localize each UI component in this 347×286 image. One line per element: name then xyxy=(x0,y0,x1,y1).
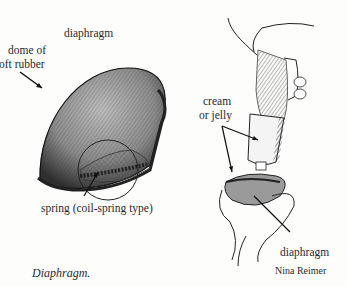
diaphragm-illustration xyxy=(0,0,347,286)
label-cream-line1: cream xyxy=(203,94,231,108)
label-diaphragm-right: diaphragm xyxy=(280,245,329,259)
label-diaphragm-title: diaphragm xyxy=(64,26,113,40)
figure-credit: Nina Reimer xyxy=(275,264,326,278)
cream-application-drawing xyxy=(219,18,314,266)
label-spring: spring (coil-spring type) xyxy=(41,201,153,215)
diaphragm-dome-drawing xyxy=(20,68,165,200)
label-cream-line2: or jelly xyxy=(199,108,232,122)
label-dome-line2: oft rubber xyxy=(0,57,45,71)
label-dome-line1: dome of xyxy=(8,43,46,57)
figure-caption: Diaphragm. xyxy=(32,266,90,280)
